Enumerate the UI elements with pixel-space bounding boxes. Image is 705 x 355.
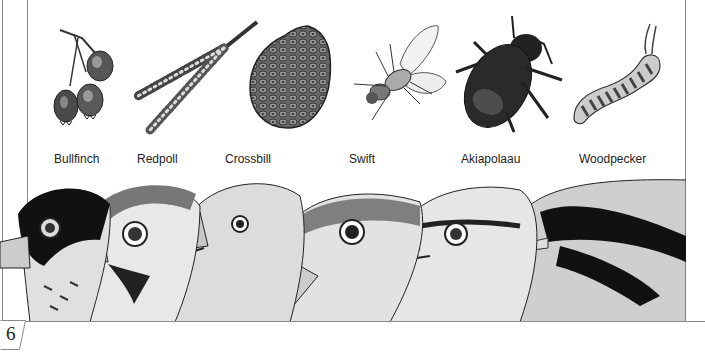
fly-icon bbox=[350, 24, 450, 124]
bird-heads-illustration bbox=[0, 176, 686, 322]
bullfinch-head bbox=[0, 188, 110, 322]
caterpillar-icon bbox=[568, 22, 668, 127]
caption-swift: Swift bbox=[349, 152, 375, 166]
beetle-icon bbox=[448, 14, 578, 134]
caption-woodpecker: Woodpecker bbox=[579, 152, 646, 166]
caption-akiapolaau: Akiapolaau bbox=[461, 152, 520, 166]
berries-icon bbox=[52, 24, 122, 129]
caption-crossbill: Crossbill bbox=[225, 152, 271, 166]
caption-redpoll: Redpoll bbox=[137, 152, 178, 166]
page-number: 6 bbox=[6, 323, 16, 345]
frame-rule-bottom bbox=[20, 321, 705, 322]
catkin-icon bbox=[132, 18, 262, 138]
caption-bullfinch: Bullfinch bbox=[54, 152, 99, 166]
pine-cone-icon bbox=[248, 22, 333, 132]
